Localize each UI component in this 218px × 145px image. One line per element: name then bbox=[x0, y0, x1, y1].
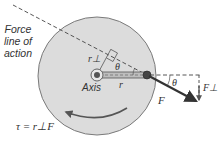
force-application-point bbox=[143, 71, 151, 79]
f-perp-label: F⊥ bbox=[203, 83, 218, 93]
line-of-action-label: Force line of action bbox=[4, 23, 32, 59]
r-label: r bbox=[119, 80, 123, 90]
label-line-2: line of bbox=[4, 35, 32, 47]
axis-pin bbox=[94, 72, 100, 78]
torque-equation: τ = r⊥F bbox=[16, 121, 54, 132]
theta-arc-outer bbox=[168, 75, 171, 86]
axis-label: Axis bbox=[82, 83, 101, 93]
r-perp-label: r⊥ bbox=[88, 54, 101, 64]
theta-outer-label: θ bbox=[172, 78, 177, 88]
force-label: F bbox=[158, 95, 165, 106]
label-line-1: Force bbox=[4, 23, 32, 35]
theta-inner-label: θ bbox=[115, 62, 120, 72]
label-line-3: action bbox=[4, 47, 32, 59]
